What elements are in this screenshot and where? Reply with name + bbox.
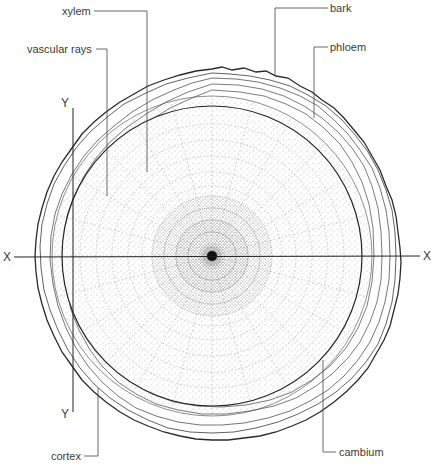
- leader-cortex: [84, 388, 98, 456]
- leader-phloem: [314, 47, 328, 118]
- label-xylem: xylem: [62, 5, 91, 17]
- axis-label-y-top: Y: [61, 97, 69, 109]
- axis-label-y-bottom: Y: [61, 408, 69, 420]
- label-phloem: phloem: [330, 41, 366, 53]
- stem-cross-section-diagram: [0, 0, 435, 469]
- pith: [207, 251, 217, 261]
- axis-label-x-right: X: [423, 250, 431, 262]
- axis-label-x-left: X: [3, 251, 11, 263]
- label-cortex: cortex: [51, 450, 81, 462]
- label-vascular-rays: vascular rays: [27, 43, 92, 55]
- label-bark: bark: [330, 2, 351, 14]
- label-cambium: cambium: [339, 446, 384, 458]
- leader-bark: [275, 8, 328, 75]
